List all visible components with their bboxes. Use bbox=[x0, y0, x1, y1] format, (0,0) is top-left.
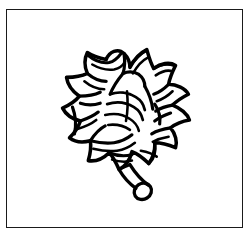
leaf-left-mid bbox=[80, 103, 100, 104]
stem-tip bbox=[131, 180, 155, 203]
leaf-bottom-middle bbox=[109, 153, 132, 156]
drawing-ink-group bbox=[63, 50, 190, 203]
leaf-left-upper-inner bbox=[84, 81, 104, 89]
core-right-fold bbox=[145, 86, 153, 109]
leaf-left-upper bbox=[87, 73, 106, 81]
leaf-left-bottom-fold bbox=[90, 126, 105, 141]
vein-center-4 bbox=[108, 125, 130, 130]
leaf-right-lower-inner bbox=[153, 137, 169, 142]
vegetable-line-drawing bbox=[7, 10, 242, 227]
page-root bbox=[0, 0, 252, 240]
image-frame bbox=[6, 9, 243, 228]
leaf-left-edge-fold bbox=[72, 107, 75, 134]
core-left-fold bbox=[110, 73, 123, 94]
head-outline bbox=[63, 50, 190, 170]
leaf-top-peak-stroke bbox=[123, 54, 125, 74]
vein-center-spine bbox=[126, 91, 128, 121]
leaf-bottom-left bbox=[90, 135, 132, 143]
vein-center-3 bbox=[105, 114, 139, 131]
leaf-right-mid bbox=[155, 113, 171, 121]
leaf-right-lower bbox=[152, 128, 171, 134]
leaf-left-vein-1 bbox=[79, 92, 100, 96]
leaf-right-upper bbox=[154, 84, 169, 94]
